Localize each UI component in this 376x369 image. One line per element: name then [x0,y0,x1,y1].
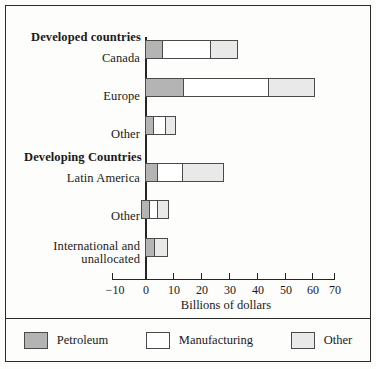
bar-segment-other [157,200,169,219]
bar-segment-manufacturing [157,163,183,182]
legend-item-petroleum[interactable]: Petroleum [24,332,108,349]
x-tick-label-50: 50 [280,283,292,298]
x-tick-60 [312,273,313,280]
x-tick-40 [257,273,258,280]
row-label-europe: Europe [103,90,140,103]
x-tick-label-40: 40 [252,283,264,298]
x-tick-20 [201,273,202,280]
legend-label-petroleum: Petroleum [57,333,108,348]
row-label-international-unallocated: International and unallocated [53,240,140,266]
bar-segment-petroleum [145,40,163,59]
x-tick-label-70: 70 [329,283,341,298]
x-tick-0 [145,273,146,280]
row-label-other-developed: Other [111,128,140,141]
legend-label-other: Other [324,333,352,348]
x-tick-neg10 [112,273,113,280]
x-tick-label-neg10: −10 [106,283,125,298]
plot-area: Developed countries Developing Countries… [0,0,376,369]
x-tick-label-60: 60 [307,283,319,298]
bar-segment-other [182,163,224,182]
bar-segment-other [268,78,315,97]
bar-segment-other [210,40,238,59]
chart-legend: Petroleum Manufacturing Other [5,318,371,362]
bar-segment-petroleum [145,78,184,97]
x-tick-label-10: 10 [168,283,180,298]
bar-canada[interactable] [145,40,238,59]
row-label-canada: Canada [102,52,140,65]
x-tick-70 [334,273,335,280]
bar-latin-america[interactable] [145,163,224,182]
group-header-developing: Developing Countries [24,150,142,165]
bar-segment-manufacturing [183,78,269,97]
legend-swatch-petroleum-icon [24,332,48,349]
row-label-latin-america: Latin America [67,172,140,185]
x-tick-label-20: 20 [196,283,208,298]
x-tick-30 [229,273,230,280]
bar-segment-manufacturing [162,40,211,59]
legend-swatch-other-icon [291,332,315,349]
bar-international-unallocated[interactable] [145,238,168,257]
x-tick-label-0: 0 [143,283,149,298]
legend-swatch-manufacturing-icon [146,332,170,349]
legend-label-manufacturing: Manufacturing [179,333,253,348]
legend-item-other[interactable]: Other [291,332,352,349]
group-header-developed: Developed countries [31,30,141,45]
x-axis-title: Billions of dollars [0,298,376,313]
chart-figure: Developed countries Developing Countries… [0,0,376,369]
bar-other-developed[interactable] [145,116,176,135]
x-tick-50 [285,273,286,280]
bar-segment-other [165,116,176,135]
bar-segment-other [154,238,168,257]
bar-other-developing[interactable] [141,200,169,219]
x-tick-10 [173,273,174,280]
bar-europe[interactable] [145,78,315,97]
row-label-other-developing: Other [111,210,140,223]
x-tick-label-30: 30 [224,283,236,298]
legend-item-manufacturing[interactable]: Manufacturing [146,332,253,349]
